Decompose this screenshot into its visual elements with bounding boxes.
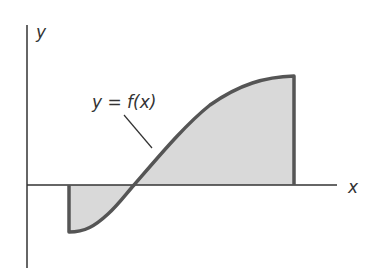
label-leader-line <box>124 115 152 148</box>
negative-area-region <box>69 185 134 232</box>
curve-label: y = f(x) <box>91 92 156 112</box>
y-axis-label: y <box>35 22 47 42</box>
positive-area-region <box>134 76 294 185</box>
area-under-curve-diagram: y x y = f(x) <box>0 0 378 273</box>
x-axis-label: x <box>347 177 359 197</box>
